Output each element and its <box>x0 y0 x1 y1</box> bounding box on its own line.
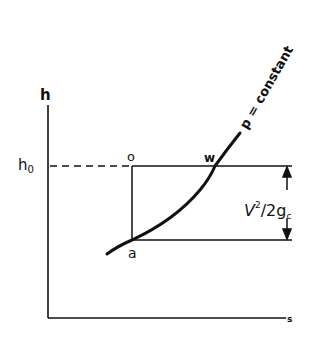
h0-label: h0 <box>18 156 34 175</box>
y-axis-label: h <box>40 86 51 104</box>
velocity-denominator: 2g <box>266 201 286 220</box>
point-o-label: o <box>127 149 135 164</box>
point-a-label: a <box>128 245 137 261</box>
x-axis-label: s <box>287 314 292 324</box>
arrow-head-down <box>283 229 291 239</box>
point-w-label: w <box>204 151 215 165</box>
arrow-head-up <box>283 167 291 177</box>
h-s-diagram: h s h0 o w a p = constant V2/2gc <box>0 0 330 350</box>
velocity-head-label: V2/2gc <box>244 200 291 221</box>
gc-subscript: c <box>286 211 291 221</box>
curve-label: p = constant <box>237 43 297 131</box>
h0-label-subscript: 0 <box>28 164 34 175</box>
h0-label-main: h <box>18 156 28 174</box>
